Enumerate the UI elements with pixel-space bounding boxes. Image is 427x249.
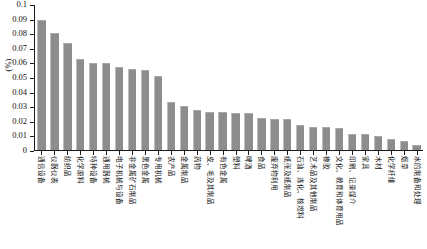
bar: [76, 59, 84, 150]
x-tick: [248, 151, 249, 155]
x-tick-slot: [139, 151, 152, 155]
x-tick-slot: [371, 151, 384, 155]
y-tick: 0.08: [30, 34, 34, 35]
bar-slot: [190, 5, 203, 150]
x-axis-label: 烟草: [400, 156, 407, 170]
x-axis-label: 黑色金属: [142, 156, 149, 184]
x-tick-slot: [203, 151, 216, 155]
bar: [115, 67, 123, 150]
bar: [322, 127, 330, 150]
bar-slot: [255, 5, 268, 150]
bar-slot: [307, 5, 320, 150]
x-axis-category-labels: 通信设备仪器仪表纺织品化学原料特种设备通用器械电子机械与设备非金属矿石制品黑色金…: [35, 156, 423, 248]
x-label-slot: 文化、教育和体育用品: [333, 156, 346, 248]
x-label-slot: 皮、毛及其制品: [203, 156, 216, 248]
bar-slot: [164, 5, 177, 150]
bar-slot: [333, 5, 346, 150]
x-tick: [404, 151, 405, 155]
x-axis-label: 通信设备: [38, 156, 45, 184]
x-tick-slot: [61, 151, 74, 155]
y-tick-label: 0: [0, 145, 27, 155]
x-axis-label: 印刷、记录媒介: [349, 156, 356, 205]
bar-slot: [203, 5, 216, 150]
bar: [167, 102, 175, 150]
x-tick: [132, 151, 133, 155]
x-tick: [300, 151, 301, 155]
x-tick: [287, 151, 288, 155]
x-axis-label: 专用机械: [155, 156, 162, 184]
y-tick: 0.07: [30, 49, 34, 50]
x-label-slot: 印刷、记录媒介: [346, 156, 359, 248]
bar-slot: [371, 5, 384, 150]
x-tick-slot: [281, 151, 294, 155]
bar-slot: [35, 5, 48, 150]
x-tick: [326, 151, 327, 155]
y-tick: 0.03: [30, 107, 34, 108]
x-label-slot: 仪器仪表: [48, 156, 61, 248]
x-axis-label: 仪器仪表: [51, 156, 58, 184]
bar-slot: [346, 5, 359, 150]
x-tick-slot: [229, 151, 242, 155]
bar: [296, 125, 304, 150]
bar: [270, 119, 278, 150]
x-axis-label: 药物: [193, 156, 200, 170]
x-axis-label: 塑料: [232, 156, 239, 170]
x-tick: [184, 151, 185, 155]
x-axis-label: 水的制备和处理: [413, 156, 420, 205]
bar-slot: [139, 5, 152, 150]
bar: [244, 113, 252, 150]
x-axis-ticks: [35, 151, 423, 155]
x-axis-label: 食品: [258, 156, 265, 170]
x-tick: [171, 151, 172, 155]
x-label-slot: 木材: [371, 156, 384, 248]
x-label-slot: 黑色金属: [139, 156, 152, 248]
x-axis-label: 文化、教育和体育用品: [336, 156, 343, 226]
x-tick: [274, 151, 275, 155]
x-axis-label: 石油、炼化、核燃料: [297, 156, 304, 219]
x-tick-slot: [126, 151, 139, 155]
x-label-slot: 化学纤维: [384, 156, 397, 248]
bar-slot: [268, 5, 281, 150]
x-tick: [210, 151, 211, 155]
y-tick-label: 0.09: [0, 14, 27, 24]
x-axis-label: 有色金属: [219, 156, 226, 184]
x-tick-slot: [255, 151, 268, 155]
x-tick-slot: [35, 151, 48, 155]
bar: [257, 118, 265, 150]
x-tick-slot: [48, 151, 61, 155]
x-tick: [80, 151, 81, 155]
bar: [218, 112, 226, 150]
x-tick-slot: [333, 151, 346, 155]
bar-slot: [216, 5, 229, 150]
y-tick: 0.01: [30, 136, 34, 137]
x-tick: [145, 151, 146, 155]
bar-chart: (%) 0.10.090.080.070.060.050.040.030.020…: [0, 0, 427, 249]
bar-slot: [126, 5, 139, 150]
bar-series: [35, 5, 423, 150]
x-label-slot: 通用器械: [100, 156, 113, 248]
x-tick: [93, 151, 94, 155]
x-axis-label: 纸张及纸制品: [284, 156, 291, 198]
x-axis-label: 化学纤维: [387, 156, 394, 184]
bar: [309, 127, 317, 150]
x-tick: [236, 151, 237, 155]
x-tick: [339, 151, 340, 155]
bar: [374, 136, 382, 150]
x-label-slot: 艺术品及其他制品: [307, 156, 320, 248]
y-tick-label: 0.06: [0, 57, 27, 67]
bar-slot: [177, 5, 190, 150]
bar: [89, 63, 97, 150]
x-axis-label: 木材: [375, 156, 382, 170]
x-tick-slot: [410, 151, 423, 155]
x-tick: [223, 151, 224, 155]
x-tick-slot: [320, 151, 333, 155]
bar-slot: [294, 5, 307, 150]
bar-slot: [151, 5, 164, 150]
x-label-slot: 专用机械: [151, 156, 164, 248]
x-tick-slot: [294, 151, 307, 155]
bar: [193, 110, 201, 150]
bar-slot: [397, 5, 410, 150]
x-label-slot: 有色金属: [216, 156, 229, 248]
x-tick: [417, 151, 418, 155]
bar-slot: [320, 5, 333, 150]
